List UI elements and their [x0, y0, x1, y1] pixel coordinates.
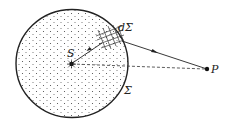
label-point: P — [210, 63, 219, 76]
arrow-dsigma-to-p — [122, 41, 207, 69]
label-source: S — [67, 47, 75, 60]
label-surface-element: dΣ — [118, 21, 133, 34]
source-point — [67, 60, 76, 69]
point-p — [205, 67, 209, 71]
label-surface: Σ — [123, 84, 132, 97]
gauss-surface-diagram: S dΣ Σ P — [0, 0, 232, 127]
